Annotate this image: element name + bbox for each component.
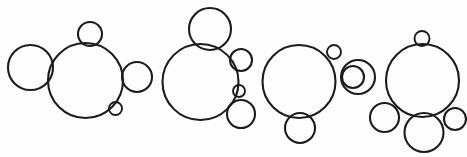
circle-cluster-drawing (0, 0, 467, 157)
cluster-4-bottom-center-satellite-circle-shape (405, 113, 444, 152)
cluster-3-right-inner-satellite-circle-shape (342, 66, 364, 88)
figure-canvas (0, 0, 467, 157)
cluster-3-main-circle-shape (263, 45, 336, 118)
cluster-4-main-circle-shape (386, 44, 459, 117)
cluster-4-bottom-left-satellite-circle-shape (370, 103, 399, 132)
cluster-3-right-outer-satellite-circle-shape (341, 60, 375, 94)
cluster-2 (163, 8, 256, 128)
cluster-1-left-satellite-circle-shape (8, 45, 53, 90)
cluster-1-main-circle-shape (48, 43, 123, 118)
cluster-2-right-lower-satellite-circle-shape (227, 100, 255, 128)
cluster-2-top-satellite-circle-shape (189, 8, 231, 50)
cluster-2-right-upper-satellite-circle-shape (230, 49, 252, 71)
cluster-4-bottom-right-satellite-circle-shape (444, 108, 466, 130)
cluster-3-top-right-dot-circle-shape (327, 45, 341, 59)
clusters-group (8, 8, 466, 152)
cluster-1 (8, 22, 152, 118)
cluster-1-right-satellite-circle-shape (122, 62, 152, 92)
cluster-4 (370, 31, 466, 152)
cluster-3 (263, 45, 376, 143)
